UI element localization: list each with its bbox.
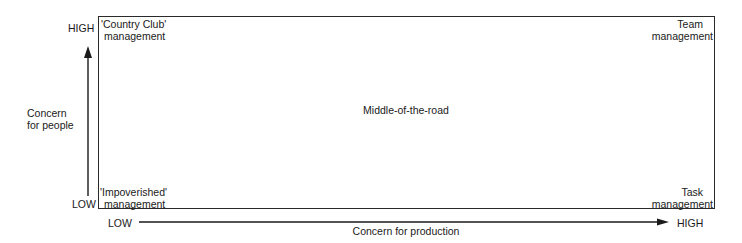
x-axis-title: Concern for production [306,225,506,237]
x-axis-high-label: HIGH [677,217,703,229]
y-axis-high-label: HIGH [68,22,94,34]
x-axis-arrowhead-icon [657,219,669,226]
y-axis-title: Concern for people [27,107,74,131]
quadrant-impoverished-line2: management [100,198,167,210]
quadrant-team-line1: Team [600,18,713,30]
quadrant-impoverished-line1: 'Impoverished' [100,186,167,198]
quadrant-team: Team management [600,18,713,42]
quadrant-task-line2: management [600,198,713,210]
quadrant-impoverished: 'Impoverished' management [100,186,167,210]
y-axis-low-label: LOW [72,198,96,210]
quadrant-country-club: 'Country Club' management [101,18,166,42]
y-axis-title-line2: for people [27,119,74,131]
y-axis-arrowhead-icon [84,46,92,58]
x-axis-low-label: LOW [108,217,132,229]
quadrant-country-club-line1: 'Country Club' [101,18,166,30]
quadrant-task: Task management [600,186,713,210]
quadrant-team-line2: management [600,30,713,42]
y-axis-title-line1: Concern [27,107,74,119]
quadrant-task-line1: Task [600,186,713,198]
quadrant-middle-of-the-road: Middle-of-the-road [326,104,486,116]
quadrant-country-club-line2: management [101,30,166,42]
